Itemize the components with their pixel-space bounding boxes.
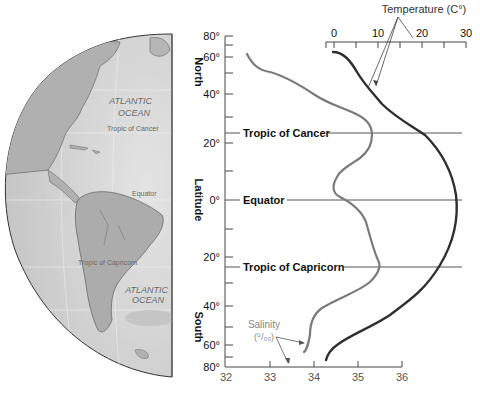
sal-tick-36: 36 xyxy=(396,371,408,383)
temperature-axis-title: Temperature (C°) xyxy=(382,3,466,15)
map-label-atlantic-north-1: ATLANTIC xyxy=(108,96,152,106)
temp-tick-0: 0 xyxy=(331,27,337,39)
temp-tick-20: 20 xyxy=(416,27,428,39)
temperature-curve xyxy=(326,52,457,360)
lat-tick-80n: 80° xyxy=(203,30,220,42)
map-label-tropic-cancer: Tropic of Cancer xyxy=(107,125,159,133)
sal-tick-33: 33 xyxy=(264,371,276,383)
map-label-atlantic-south-2: OCEAN xyxy=(132,295,165,305)
salinity-axis-units: (⁰/₀₀) xyxy=(254,332,274,342)
temperature-axis: 0 10 20 30 Temperature (C°) xyxy=(326,3,472,88)
lat-tick-0: 0° xyxy=(209,194,220,206)
sal-tick-34: 34 xyxy=(308,371,320,383)
lat-tick-20s: 20° xyxy=(203,251,220,263)
figure: ATLANTIC OCEAN Tropic of Cancer Equator … xyxy=(0,0,480,393)
map-label-atlantic-south-1: ATLANTIC xyxy=(124,285,168,295)
map-label-atlantic-north-2: OCEAN xyxy=(118,108,151,118)
salinity-axis-title: Salinity xyxy=(248,319,280,330)
salinity-axis: 32 33 34 35 36 Salinity (⁰/₀₀) xyxy=(220,319,408,383)
ref-label-equator: Equator xyxy=(243,194,285,206)
temp-tick-10: 10 xyxy=(372,27,384,39)
latitude-axis: 80° 60° 40° 20° 0° 20° 40° 60° 80° xyxy=(203,30,233,373)
sal-tick-32: 32 xyxy=(220,371,232,383)
axis-label-latitude: Latitude xyxy=(193,179,205,222)
map-label-tropic-capricorn: Tropic of Capricorn xyxy=(78,259,137,267)
lat-tick-40s: 40° xyxy=(203,300,220,312)
ref-label-tropic-cancer: Tropic of Cancer xyxy=(243,127,331,139)
lat-tick-40n: 40° xyxy=(203,88,220,100)
map-label-equator: Equator xyxy=(132,190,157,198)
globe-map: ATLANTIC OCEAN Tropic of Cancer Equator … xyxy=(0,30,175,380)
ref-label-tropic-capricorn: Tropic of Capricorn xyxy=(243,261,345,273)
sal-tick-35: 35 xyxy=(352,371,364,383)
lat-tick-20n: 20° xyxy=(203,137,220,149)
lat-tick-60n: 60° xyxy=(203,51,220,63)
temp-tick-30: 30 xyxy=(460,27,472,39)
lat-tick-80s: 80° xyxy=(203,361,220,373)
lat-tick-60s: 60° xyxy=(203,339,220,351)
